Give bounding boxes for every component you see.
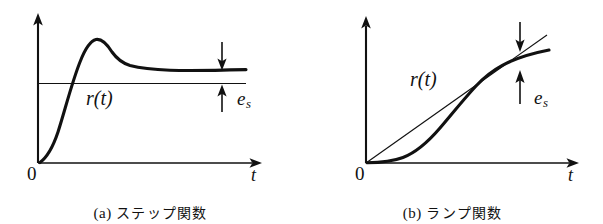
error-label-subscript: s: [543, 95, 548, 110]
panel-b-caption-index: (b): [403, 205, 422, 221]
axis-origin-label: 0: [355, 164, 365, 183]
error-label-base: e: [534, 87, 542, 108]
panel-b-caption-text: ランプ関数: [426, 205, 502, 221]
y-axis: [33, 13, 43, 163]
ramp-function-plot: [302, 0, 603, 224]
x-axis-label: t: [251, 166, 256, 184]
error-arrow-upper: [515, 22, 524, 52]
error-label-subscript: s: [246, 96, 251, 111]
ramp-response-curve: [367, 50, 549, 163]
x-axis-label: t: [568, 166, 573, 184]
step-function-plot: [0, 0, 301, 224]
curve-label-rt: r(t): [86, 88, 113, 108]
panel-b-caption: (b) ランプ関数: [302, 202, 603, 222]
panel-a-caption: (a) ステップ関数: [0, 202, 301, 222]
panel-ramp-function: r(t) 0 t es (b) ランプ関数: [302, 0, 603, 224]
figure-container: r(t) 0 t es (a) ステップ関数: [0, 0, 603, 224]
step-response-curve: [40, 39, 246, 162]
panel-step-function: r(t) 0 t es (a) ステップ関数: [0, 0, 301, 224]
curve-label-rt: r(t): [410, 69, 437, 89]
y-axis: [361, 16, 371, 163]
panel-a-caption-index: (a): [93, 205, 111, 221]
x-axis: [38, 158, 262, 167]
panel-a-caption-text: ステップ関数: [116, 205, 207, 221]
error-arrow-lower: [515, 70, 524, 104]
steady-state-error-label: es: [534, 88, 548, 110]
steady-state-error-label: es: [237, 89, 251, 111]
error-arrow-upper: [217, 42, 226, 71]
axis-origin-label: 0: [27, 164, 37, 183]
error-arrow-lower: [217, 85, 226, 113]
error-label-base: e: [237, 88, 245, 109]
